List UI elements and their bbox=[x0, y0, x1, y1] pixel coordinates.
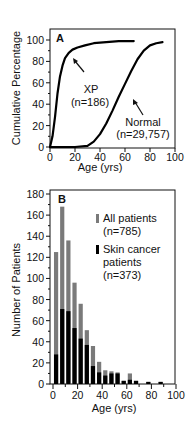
x-tick-label: 20 bbox=[72, 389, 84, 401]
bar-skin-cancer bbox=[91, 366, 95, 384]
bar-skin-cancer bbox=[85, 345, 89, 384]
x-tick-label: 80 bbox=[144, 151, 156, 163]
y-tick-label: 100 bbox=[26, 34, 44, 46]
bar-skin-cancer bbox=[134, 381, 138, 384]
bar-skin-cancer bbox=[72, 328, 76, 384]
y-axis-label-b: Number of Patients bbox=[10, 242, 22, 337]
legend-swatch-all bbox=[96, 214, 99, 223]
y-tick-label: 120 bbox=[26, 251, 44, 263]
x-tick-label: 100 bbox=[166, 151, 184, 163]
x-tick-label: 100 bbox=[167, 389, 185, 401]
panel-label-a: A bbox=[56, 32, 64, 44]
legend-swatch-skin bbox=[96, 245, 99, 254]
legend-label-all: All patients bbox=[103, 212, 157, 224]
y-tick-label: 60 bbox=[32, 315, 44, 327]
y-tick-label: 20 bbox=[32, 120, 44, 132]
y-tick-label: 80 bbox=[32, 55, 44, 67]
bar-skin-cancer bbox=[115, 373, 119, 384]
bar-skin-cancer bbox=[122, 381, 126, 384]
x-tick-label: 0 bbox=[50, 389, 56, 401]
arrow-normal bbox=[135, 102, 143, 115]
chart-panel-a: A 020406080100020406080100 Age (yrs) Cum… bbox=[10, 29, 184, 173]
bar-skin-cancer bbox=[97, 372, 101, 384]
normal-label: Normal bbox=[125, 116, 160, 128]
annotation-xp: XP (n=186) bbox=[71, 58, 109, 108]
y-tick-label: 160 bbox=[26, 209, 44, 221]
x-tick-label: 0 bbox=[47, 151, 53, 163]
legend-n-skin: (n=373) bbox=[103, 269, 141, 281]
y-tick-label: 60 bbox=[32, 77, 44, 89]
normal-n-label: (n=29,757) bbox=[116, 128, 170, 140]
legend-label-skin: Skin cancer bbox=[103, 243, 161, 255]
x-axis-label-b: Age (yrs) bbox=[92, 402, 137, 414]
y-tick-label: 0 bbox=[38, 141, 44, 153]
chart-panel-b: B 020406080100120140160180020406080100 A… bbox=[10, 188, 185, 414]
bar-skin-cancer bbox=[66, 311, 70, 384]
x-axis-label-a: Age (yrs) bbox=[78, 161, 123, 173]
legend: All patients (n=785) Skin cancer patient… bbox=[96, 212, 161, 281]
arrow-xp bbox=[75, 61, 84, 72]
arrowhead-icon bbox=[133, 99, 138, 105]
bar-skin-cancer bbox=[159, 382, 163, 384]
x-tick-label: 60 bbox=[121, 389, 133, 401]
figure: A 020406080100020406080100 Age (yrs) Cum… bbox=[0, 0, 196, 426]
bar-skin-cancer bbox=[60, 309, 64, 384]
legend-n-all: (n=785) bbox=[103, 225, 141, 237]
bar-skin-cancer bbox=[79, 339, 83, 384]
y-axis-label-a: Cumulative Percentage bbox=[10, 31, 22, 145]
y-tick-label: 40 bbox=[32, 336, 44, 348]
y-tick-label: 100 bbox=[26, 272, 44, 284]
panel-label-b: B bbox=[58, 193, 66, 205]
y-tick-label: 180 bbox=[26, 188, 44, 200]
bar-skin-cancer bbox=[103, 376, 107, 384]
bar-skin-cancer bbox=[128, 380, 132, 384]
y-tick-label: 40 bbox=[32, 98, 44, 110]
legend-label-skin-2: patients bbox=[103, 256, 142, 268]
y-tick-label: 80 bbox=[32, 294, 44, 306]
bar-skin-cancer bbox=[146, 382, 150, 384]
xp-label: XP bbox=[84, 83, 99, 95]
y-tick-label: 140 bbox=[26, 230, 44, 242]
xp-n-label: (n=186) bbox=[71, 96, 109, 108]
y-tick-label: 20 bbox=[32, 357, 44, 369]
bar-skin-cancer bbox=[54, 354, 58, 384]
x-tick-label: 80 bbox=[146, 389, 158, 401]
bar-skin-cancer bbox=[109, 373, 113, 384]
y-tick-label: 0 bbox=[38, 378, 44, 390]
x-tick-label: 40 bbox=[96, 389, 108, 401]
annotation-normal: Normal (n=29,757) bbox=[116, 99, 170, 140]
